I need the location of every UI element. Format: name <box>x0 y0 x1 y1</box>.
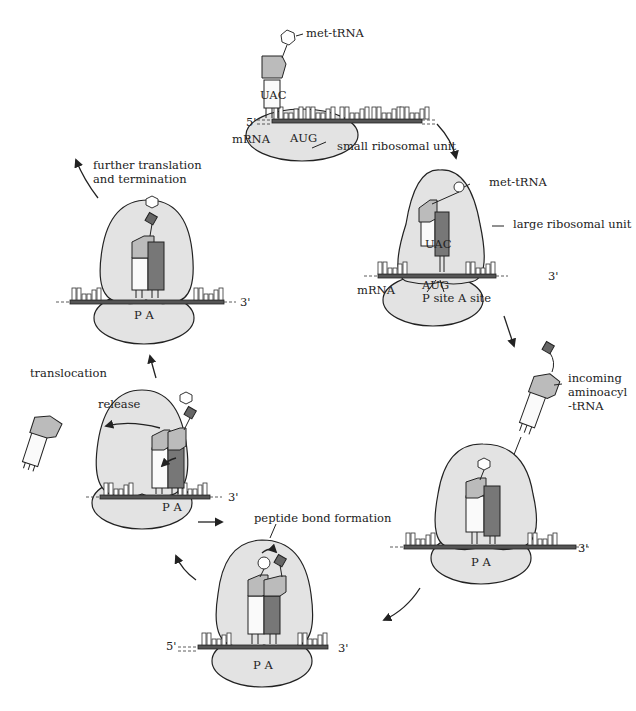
stage-initiation: met-tRNA UAC 5' mRNA AUG small ribosomal… <box>232 26 457 161</box>
label-met-trna-right: met-tRNA <box>489 175 548 189</box>
label-5prime-top: 5' <box>246 115 256 129</box>
stage-peptide-bond: P A 5' 3' peptide bond formation <box>166 511 392 687</box>
stage-elongation: P A 3' <box>56 196 250 344</box>
stage-aminoacyl-entry: incoming aminoacyl -tRNA P A 3' <box>390 342 628 584</box>
label-3prime-right: 3' <box>548 269 558 283</box>
label-incoming-2: aminoacyl <box>568 385 628 399</box>
translation-cycle-diagram: met-tRNA UAC 5' mRNA AUG small ribosomal… <box>0 0 636 711</box>
label-uac-top: UAC <box>260 88 287 102</box>
met-trna-head <box>262 56 286 78</box>
label-3prime-lower-right: 3' <box>578 541 588 555</box>
label-peptide-bond: peptide bond formation <box>254 511 392 525</box>
label-release: release <box>98 397 141 411</box>
cycle-arrow-2 <box>504 316 514 346</box>
label-further-2: and termination <box>93 172 187 186</box>
label-pa-left: P A <box>162 500 182 514</box>
label-incoming-3: -tRNA <box>568 399 604 413</box>
label-3prime-left: 3' <box>228 490 238 504</box>
label-mrna-top: mRNA <box>232 132 271 146</box>
incoming-aminoacyl-trna <box>515 369 561 438</box>
label-pa-upper-left: P A <box>134 308 154 322</box>
stage-large-subunit: met-tRNA large ribosomal unit UAC 3' mRN… <box>357 170 632 326</box>
label-translocation: translocation <box>30 366 107 380</box>
label-large-unit: large ribosomal unit <box>513 217 632 231</box>
label-3prime-upper-left: 3' <box>240 295 250 309</box>
cycle-arrow-4 <box>176 556 196 580</box>
methionine-icon <box>281 30 295 45</box>
label-uac-right: UAC <box>425 237 452 251</box>
label-pa-bottom: P A <box>253 658 273 672</box>
label-incoming-1: incoming <box>568 371 622 385</box>
label-5prime-bottom: 5' <box>166 639 176 653</box>
label-mrna-right: mRNA <box>357 283 396 297</box>
label-small-unit: small ribosomal unit <box>337 139 457 153</box>
label-met-trna-top: met-tRNA <box>306 26 365 40</box>
mrna-strand <box>272 119 422 123</box>
label-further-1: further translation <box>93 158 202 172</box>
cycle-arrow-3 <box>384 588 420 620</box>
released-trna <box>19 412 64 476</box>
label-aug-right: AUG <box>421 278 449 292</box>
label-3prime-bottom: 3' <box>338 641 348 655</box>
cycle-arrow-5 <box>150 356 156 378</box>
label-p-a-site: P site A site <box>422 291 491 305</box>
label-pa-lower-right: P A <box>471 555 491 569</box>
stage-translocation: release translocation P A 3' <box>19 366 239 529</box>
label-aug-top: AUG <box>289 131 317 145</box>
